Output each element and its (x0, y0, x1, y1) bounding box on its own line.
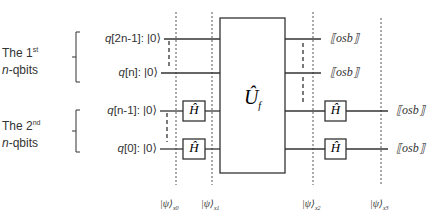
qubit-label-qn-1: q[n-1]: |0⟩ (107, 103, 157, 117)
qubit-label-qn: q[n]: |0⟩ (119, 65, 158, 79)
group-label-second-line1: The 2 (2, 119, 33, 133)
qubit-label-q2n-1: q[2n-1]: |0⟩ (105, 31, 161, 45)
state-label-x3: |ψ⟩x3 (370, 198, 389, 211)
hadamard-label-q0-left: Ĥ (183, 140, 205, 156)
brace-second-group (72, 110, 80, 152)
hadamard-label-qn-1-left: Ĥ (183, 102, 205, 118)
quantum-circuit-diagram: The 1st n-qbits The 2nd n-qbits q[2n-1]:… (0, 0, 436, 222)
qubit-index: [n-1] (114, 104, 137, 116)
qubit-state: : |0⟩ (141, 32, 161, 44)
group-label-second-sup: nd (33, 119, 41, 126)
state-label-x0: |ψ⟩x0 (160, 198, 179, 211)
state-sub: x2 (315, 205, 321, 211)
qubit-index: [n] (125, 66, 138, 78)
qubit-index: [0] (124, 142, 137, 154)
state-ket: |ψ⟩ (160, 198, 173, 209)
state-label-x2: |ψ⟩x2 (302, 198, 321, 211)
state-ket: |ψ⟩ (370, 198, 383, 209)
hadamard-label-q0-right: Ĥ (325, 140, 346, 156)
circuit-lines (0, 0, 436, 222)
measurement-qn: ⟦osb⟧ (330, 65, 359, 80)
oracle-symbol: Û (244, 86, 258, 108)
oracle-subscript: f (258, 100, 261, 111)
qubit-index: [2n-1] (111, 32, 140, 44)
group-label-second-line2: -qbits (9, 136, 38, 150)
hadamard-label-qn-1-right: Ĥ (325, 102, 346, 118)
group-label-first-sup: st (33, 46, 38, 53)
oracle-label: Ûf (220, 86, 285, 111)
measurement-q2n-1: ⟦osb⟧ (330, 31, 359, 46)
measurement-q0: ⟦osb⟧ (396, 141, 425, 156)
measurement-qn-1: ⟦osb⟧ (396, 103, 425, 118)
state-label-x1: |ψ⟩x1 (201, 198, 220, 211)
qubit-state: : |0⟩ (137, 104, 157, 116)
group-label-second-n: n (2, 136, 9, 150)
group-label-first-line1: The 1 (2, 46, 33, 60)
group-label-second: The 2nd n-qbits (2, 114, 40, 152)
state-sub: x3 (383, 205, 389, 211)
group-label-first: The 1st n-qbits (2, 41, 38, 79)
qubit-state: : |0⟩ (138, 66, 158, 78)
state-sub: x1 (214, 205, 220, 211)
state-ket: |ψ⟩ (201, 198, 214, 209)
qubit-label-q0: q[0]: |0⟩ (118, 141, 157, 155)
group-label-first-n: n (2, 63, 9, 77)
group-label-first-line2: -qbits (9, 63, 38, 77)
qubit-state: : |0⟩ (137, 142, 157, 154)
state-ket: |ψ⟩ (302, 198, 315, 209)
brace-first-group (72, 32, 80, 82)
state-sub: x0 (173, 205, 179, 211)
